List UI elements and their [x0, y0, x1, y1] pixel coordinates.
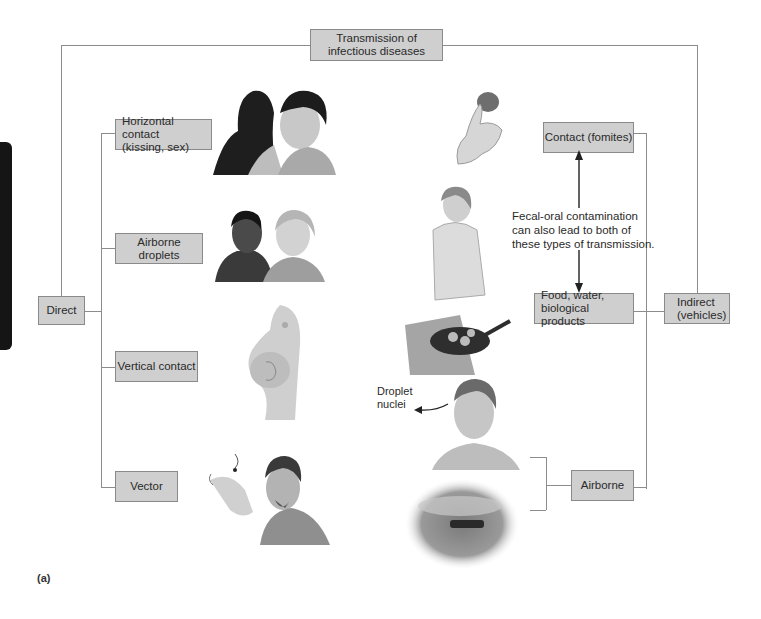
food-label-line1: Food, water, [541, 289, 604, 302]
figure-caption: (a) [37, 572, 50, 584]
fomites-label: Contact (fomites) [545, 131, 633, 144]
connector-direct-out [85, 311, 101, 312]
droplet-nuclei-label: Droplet nuclei [377, 385, 412, 411]
title-box: Transmission of infectious diseases [310, 29, 443, 61]
connector-direct-spine [101, 133, 102, 487]
connector-fomites [634, 133, 646, 134]
title-line1: Transmission of [336, 32, 417, 45]
vertical-contact-box: Vertical contact [115, 351, 198, 382]
note-line1: Fecal-oral contamination [512, 209, 655, 223]
kissing-couple-illustration [208, 83, 338, 178]
vector-box: Vector [115, 471, 178, 502]
horizontal-contact-sublabel: (kissing, sex) [122, 141, 189, 154]
connector-airborne-droplets [101, 248, 115, 249]
horizontal-contact-box: Horizontal contact (kissing, sex) [115, 119, 212, 150]
food-water-box: Food, water, biological products [534, 293, 634, 324]
indirect-sublabel: (vehicles) [677, 309, 726, 322]
bracket-top [530, 457, 546, 458]
note-line2: can also lead to both of [512, 223, 655, 237]
connector-horizontal [101, 133, 115, 134]
airborne-label: Airborne [581, 479, 624, 492]
man-coughing-illustration [432, 375, 522, 470]
airborne-droplets-box: Airborne droplets [115, 233, 203, 264]
man-with-mosquito-illustration [205, 450, 335, 545]
bracket-bottom [530, 510, 546, 511]
connector-vector [101, 487, 115, 488]
side-tab [0, 142, 12, 350]
food-label-line2: biological products [541, 302, 633, 328]
airborne-box: Airborne [571, 470, 634, 501]
connector-vertical [101, 367, 115, 368]
bracket-to-airborne [546, 485, 571, 486]
airborne-droplets-label: Airborne droplets [116, 236, 202, 262]
connector-food [634, 311, 664, 312]
dust-cloud-illustration [400, 476, 520, 571]
indirect-label: Indirect [677, 296, 715, 309]
title-line2: infectious diseases [328, 45, 425, 58]
indirect-box: Indirect (vehicles) [664, 293, 730, 324]
direct-box: Direct [38, 296, 85, 325]
bracket-vertical [546, 457, 547, 510]
note-line3: these types of transmission. [512, 237, 655, 251]
droplet-line2: nuclei [377, 398, 412, 411]
fomites-box: Contact (fomites) [543, 122, 634, 153]
woman-cooking-illustration [405, 185, 525, 375]
connector-left-vertical [61, 45, 62, 296]
hand-with-object-illustration [450, 92, 520, 172]
vertical-contact-label: Vertical contact [118, 360, 196, 373]
connector-top-right [443, 45, 697, 46]
droplet-line1: Droplet [377, 385, 412, 398]
direct-label: Direct [46, 304, 76, 317]
connector-right-vertical [697, 45, 698, 296]
pregnant-woman-illustration [240, 300, 320, 425]
fecal-oral-note: Fecal-oral contamination can also lead t… [512, 209, 655, 251]
connector-airborne [633, 487, 646, 488]
horizontal-contact-label: Horizontal contact [122, 115, 211, 141]
connector-top-left [61, 45, 310, 46]
vector-label: Vector [130, 480, 163, 493]
two-people-illustration [215, 207, 325, 282]
